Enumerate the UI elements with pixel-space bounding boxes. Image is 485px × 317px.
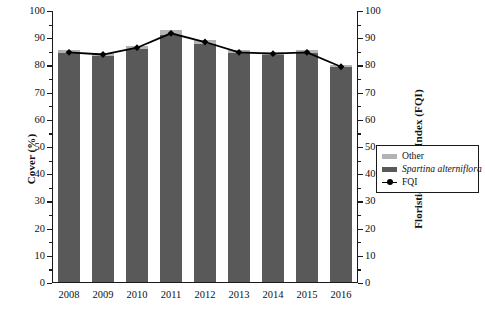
bar-group — [194, 40, 215, 282]
legend-swatch-spartina — [382, 167, 397, 172]
legend-label-fqi: FQI — [402, 177, 417, 187]
x-axis-tick-label: 2013 — [229, 289, 250, 300]
tick-mark — [47, 283, 52, 284]
tick-label: 90 — [35, 33, 46, 43]
tick-mark — [358, 120, 363, 121]
minor-tick-mark — [358, 269, 361, 270]
bar-series-group — [52, 11, 358, 283]
x-axis-tick-label: 2008 — [59, 289, 80, 300]
tick-mark — [358, 38, 363, 39]
tick-label: 10 — [35, 251, 46, 261]
x-axis-tick-label: 2010 — [127, 289, 148, 300]
legend-swatch-fqi — [382, 177, 397, 188]
tick-mark — [358, 65, 363, 66]
tick-mark — [358, 201, 363, 202]
tick-label: 100 — [29, 6, 45, 16]
legend-label-spartina: Spartina alterniflora — [402, 164, 482, 174]
bar-group — [160, 30, 181, 282]
bar-segment-spartina — [92, 56, 113, 282]
minor-tick-mark — [358, 188, 361, 189]
tick-label: 80 — [365, 60, 376, 70]
legend-fqi-marker — [387, 179, 393, 185]
minor-tick-mark — [358, 242, 361, 243]
tick-mark — [358, 256, 363, 257]
tick-mark — [358, 283, 363, 284]
chart-legend: Other Spartina alterniflora FQI — [376, 145, 479, 193]
minor-tick-mark — [358, 25, 361, 26]
tick-label: 20 — [35, 224, 46, 234]
tick-mark — [358, 11, 363, 12]
tick-label: 50 — [35, 142, 46, 152]
legend-label-other: Other — [402, 151, 424, 161]
bar-segment-spartina — [58, 53, 79, 281]
x-axis-tick-label: 2016 — [331, 289, 352, 300]
tick-mark — [358, 229, 363, 230]
tick-label: 30 — [365, 196, 376, 206]
tick-label: 80 — [35, 60, 46, 70]
legend-item-other: Other — [382, 150, 473, 162]
tick-label: 70 — [365, 88, 376, 98]
plot-area: 0102030405060708090100 01020304050607080… — [52, 11, 358, 283]
tick-mark — [358, 93, 363, 94]
minor-tick-mark — [358, 215, 361, 216]
legend-item-fqi: FQI — [382, 176, 473, 188]
x-axis-tick-label: 2009 — [93, 289, 114, 300]
tick-label: 0 — [365, 278, 370, 288]
tick-mark — [358, 147, 363, 148]
bar-segment-spartina — [194, 44, 215, 282]
tick-label: 60 — [35, 115, 46, 125]
tick-label: 30 — [35, 196, 46, 206]
bar-group — [126, 46, 147, 281]
minor-tick-mark — [358, 161, 361, 162]
bar-segment-spartina — [228, 53, 249, 281]
tick-label: 60 — [365, 115, 376, 125]
bar-group — [330, 65, 351, 281]
bar-segment-spartina — [296, 53, 317, 281]
x-axis-tick-label: 2012 — [195, 289, 216, 300]
legend-swatch-other — [382, 154, 397, 159]
x-axis-tick-label: 2011 — [161, 289, 182, 300]
x-axis-tick-label: 2014 — [263, 289, 284, 300]
bar-group — [262, 52, 283, 282]
bar-segment-spartina — [160, 35, 181, 281]
minor-tick-mark — [358, 52, 361, 53]
tick-label: 40 — [35, 169, 46, 179]
tick-label: 40 — [365, 169, 376, 179]
bar-group — [92, 53, 113, 281]
minor-tick-mark — [358, 106, 361, 107]
tick-label: 100 — [365, 6, 381, 16]
bar-segment-spartina — [126, 49, 147, 282]
tick-label: 20 — [365, 224, 376, 234]
bar-group — [58, 50, 79, 281]
tick-label: 90 — [365, 33, 376, 43]
bar-segment-spartina — [262, 55, 283, 282]
bar-segment-spartina — [330, 67, 351, 282]
tick-label: 70 — [35, 88, 46, 98]
minor-tick-mark — [358, 133, 361, 134]
x-axis-tick-label: 2015 — [297, 289, 318, 300]
chart-figure: Cover (%) Floristic Quality Index (FQI) … — [0, 0, 485, 317]
bar-group — [228, 50, 249, 281]
bar-group — [296, 50, 317, 281]
tick-label: 0 — [40, 278, 45, 288]
tick-label: 10 — [365, 251, 376, 261]
minor-tick-mark — [358, 79, 361, 80]
legend-item-spartina: Spartina alterniflora — [382, 163, 473, 175]
tick-mark — [358, 174, 363, 175]
tick-label: 50 — [365, 142, 376, 152]
